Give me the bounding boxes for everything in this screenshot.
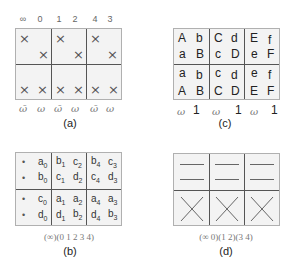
- cell-symbol: b3: [108, 209, 117, 221]
- cell-letter: e: [251, 67, 258, 79]
- symbol-subscript: 0: [43, 199, 47, 206]
- dash-mark: [180, 164, 204, 165]
- divider: [174, 64, 279, 65]
- dot-mark: •: [22, 195, 25, 204]
- cell-letter: B: [196, 85, 204, 97]
- dash-mark: [250, 179, 274, 180]
- bottom-label-omega: ω: [33, 103, 49, 114]
- bottom-label-one: 1: [235, 104, 242, 116]
- cell-symbol: a1: [56, 194, 65, 206]
- dot-mark: •: [22, 211, 25, 220]
- cell-letter: a: [179, 67, 186, 79]
- cross-mark: ×: [55, 83, 66, 96]
- top-label: 0: [32, 14, 48, 24]
- divider: [16, 64, 121, 65]
- grid-d: [173, 153, 280, 226]
- symbol-subscript: 1: [62, 215, 66, 222]
- symbol-subscript: 1: [61, 177, 65, 184]
- cell-letter: D: [231, 48, 240, 60]
- cell-symbol: c1: [56, 172, 65, 184]
- cell-letter: d: [231, 32, 238, 44]
- symbol-subscript: 4: [97, 215, 101, 222]
- dash-mark: [250, 164, 274, 165]
- cell-symbol: d1: [56, 210, 65, 222]
- cell-letter: C: [214, 32, 223, 44]
- cell-letter: B: [196, 48, 204, 60]
- cell-letter: F: [267, 48, 274, 60]
- symbol-subscript: 1: [62, 199, 66, 206]
- cell-letter: b: [196, 69, 203, 81]
- cross-icon: [215, 196, 239, 222]
- dash-mark: [215, 164, 239, 165]
- dash-mark: [180, 179, 204, 180]
- cell-letter: f: [268, 69, 271, 81]
- cell-letter: c: [215, 48, 221, 60]
- grid-a: × × × × × × × × × × × ×: [15, 28, 122, 100]
- caption-a: (a): [40, 117, 100, 129]
- cell-symbol: a4: [91, 194, 100, 206]
- symbol-subscript: 0: [44, 215, 48, 222]
- cell-letter: e: [251, 48, 258, 60]
- cell-letter: f: [268, 34, 271, 46]
- divider: [174, 190, 279, 191]
- cross-mark: ×: [73, 83, 84, 96]
- permutation-d: (∞ 0)(1 2)(3 4): [171, 232, 281, 242]
- cell-letter: F: [267, 85, 274, 97]
- cross-mark: ×: [90, 83, 101, 96]
- cross-mark: ×: [19, 32, 30, 45]
- cell-letter: d: [231, 69, 238, 81]
- cell-symbol: b1: [56, 156, 65, 168]
- bottom-label-one: 1: [193, 104, 200, 116]
- bottom-label-omega: ω: [173, 106, 189, 117]
- cell-letter: E: [250, 32, 258, 44]
- bottom-label-omega-bar: ω̄: [15, 103, 31, 114]
- bottom-label-omega: ω: [208, 106, 224, 117]
- cell-letter: c: [215, 67, 221, 79]
- divider: [16, 189, 121, 190]
- cell-symbol: d3: [108, 172, 117, 184]
- cell-letter: C: [214, 85, 223, 97]
- top-label: 2: [67, 14, 83, 24]
- bottom-label-one: 1: [271, 104, 278, 116]
- permutation-b: (∞)(0 1 2 3 4): [14, 232, 124, 242]
- cell-letter: A: [178, 32, 186, 44]
- cross-mark: ×: [37, 83, 48, 96]
- cross-icon: [250, 196, 274, 222]
- cell-symbol: a2: [73, 194, 82, 206]
- cell-symbol: c3: [108, 157, 117, 169]
- symbol-subscript: 3: [113, 162, 117, 169]
- dot-mark: •: [22, 174, 25, 183]
- caption-b: (b): [40, 245, 100, 257]
- symbol-subscript: 3: [114, 214, 118, 221]
- cell-symbol: b0: [38, 172, 47, 184]
- cell-symbol: c2: [73, 157, 82, 169]
- symbol-subscript: 4: [97, 199, 101, 206]
- cell-symbol: b4: [91, 156, 100, 168]
- top-label: 3: [102, 14, 118, 24]
- symbol-subscript: 1: [62, 161, 66, 168]
- cell-symbol: d2: [73, 172, 82, 184]
- symbol-subscript: 4: [97, 161, 101, 168]
- symbol-subscript: 2: [79, 199, 83, 206]
- top-label-infinity: ∞: [15, 14, 31, 24]
- cell-symbol: c4: [91, 172, 100, 184]
- cross-mark: ×: [19, 83, 30, 96]
- cross-mark: ×: [73, 48, 84, 61]
- bottom-label-omega-bar: ω̄: [50, 103, 66, 114]
- symbol-subscript: 2: [79, 177, 83, 184]
- grid-b: • a0 • b0 • c0 • d0 b1 c2 c1 d2 a1 a2 d1…: [15, 152, 122, 226]
- cross-mark: ×: [107, 48, 118, 61]
- bottom-label-omega: ω: [67, 103, 83, 114]
- symbol-subscript: 3: [114, 177, 118, 184]
- bottom-label-omega: ω: [102, 103, 118, 114]
- top-label: 1: [51, 14, 67, 24]
- caption-c: (c): [195, 117, 255, 129]
- cell-letter: E: [250, 85, 258, 97]
- symbol-subscript: 2: [78, 162, 82, 169]
- cross-mark: ×: [38, 48, 49, 61]
- cell-symbol: c0: [38, 194, 47, 206]
- cell-symbol: a3: [108, 194, 117, 206]
- symbol-subscript: 3: [114, 199, 118, 206]
- cross-mark: ×: [55, 32, 66, 45]
- cell-letter: a: [179, 48, 186, 60]
